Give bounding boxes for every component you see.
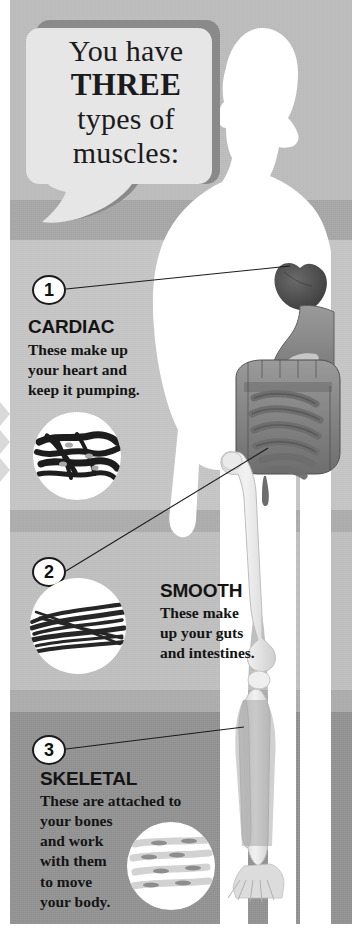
headline-line-1: You have bbox=[27, 34, 225, 68]
smooth-body-line-2: up your guts bbox=[160, 623, 310, 643]
cardiac-fibers-icon bbox=[33, 412, 121, 500]
skeletal-muscle-micrograph bbox=[127, 822, 215, 910]
headline-line-3: types of bbox=[27, 102, 225, 136]
smooth-body-line-3: and intestines. bbox=[160, 643, 310, 663]
chevron-arrows-icon bbox=[0, 400, 12, 510]
step-number-badge-1: 1 bbox=[32, 275, 66, 305]
section-title-smooth: SMOOTH bbox=[160, 580, 242, 602]
skeletal-fibers-icon bbox=[127, 822, 215, 910]
skeletal-body-line-1: These are attached to bbox=[40, 791, 220, 811]
headline-speech-bubble: You have THREE types of muscles: bbox=[18, 20, 233, 235]
section-body-smooth: These make up your guts and intestines. bbox=[160, 603, 310, 663]
section-body-cardiac: These make up your heart and keep it pum… bbox=[28, 340, 178, 400]
smooth-fibers-icon bbox=[30, 578, 126, 674]
smooth-body-line-1: These make bbox=[160, 603, 310, 623]
cardiac-muscle-micrograph bbox=[33, 412, 121, 500]
step-number-badge-3: 3 bbox=[32, 735, 66, 765]
background-band-separator-2 bbox=[10, 690, 352, 712]
cardiac-body-line-3: keep it pumping. bbox=[28, 380, 178, 400]
headline-line-2: THREE bbox=[27, 68, 225, 103]
section-title-skeletal: SKELETAL bbox=[40, 768, 137, 790]
section-title-cardiac: CARDIAC bbox=[28, 316, 114, 338]
infographic-poster: You have THREE types of muscles: 1 2 3 C… bbox=[0, 0, 362, 941]
headline-text: You have THREE types of muscles: bbox=[27, 34, 225, 170]
cardiac-body-line-1: These make up bbox=[28, 340, 178, 360]
cardiac-body-line-2: your heart and bbox=[28, 360, 178, 380]
headline-line-4: muscles: bbox=[27, 136, 225, 170]
smooth-muscle-micrograph bbox=[30, 578, 126, 674]
background-band-separator-1 bbox=[10, 510, 352, 532]
